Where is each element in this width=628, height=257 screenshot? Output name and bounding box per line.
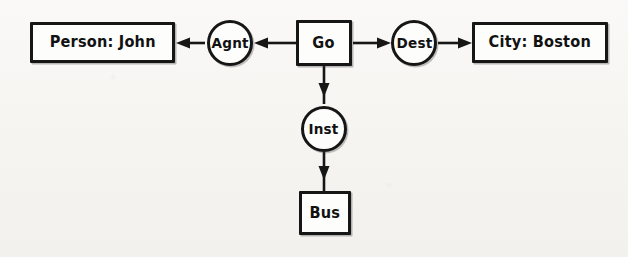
edge-go-agnt — [254, 38, 296, 49]
concept-node-person-label: Person: John — [49, 35, 155, 50]
concept-node-go-label: Go — [313, 36, 335, 51]
concept-node-go[interactable]: Go — [296, 20, 352, 66]
diagram-canvas: Person: John Agnt Go Dest City: Boston I… — [0, 0, 628, 257]
relation-node-dest-label: Dest — [396, 36, 432, 50]
edge-go-dest — [353, 38, 391, 49]
edge-go-inst — [319, 66, 330, 104]
concept-node-bus[interactable]: Bus — [299, 191, 351, 235]
relation-node-inst[interactable]: Inst — [301, 106, 347, 152]
edge-dest-city — [438, 38, 472, 49]
concept-node-bus-label: Bus — [310, 206, 341, 221]
relation-node-dest[interactable]: Dest — [391, 20, 437, 66]
relation-node-agnt-label: Agnt — [211, 36, 248, 50]
concept-node-person[interactable]: Person: John — [30, 22, 175, 63]
edge-agnt-person — [176, 38, 205, 49]
concept-node-city-label: City: Boston — [489, 35, 591, 50]
concept-node-city[interactable]: City: Boston — [472, 22, 608, 63]
relation-node-agnt[interactable]: Agnt — [207, 20, 253, 66]
edge-inst-bus — [319, 152, 330, 191]
relation-node-inst-label: Inst — [309, 122, 339, 136]
